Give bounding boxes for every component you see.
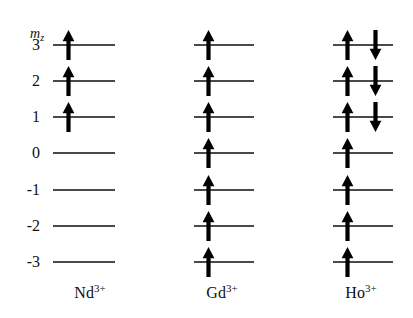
spin-up-arrow-icon	[341, 30, 354, 60]
spin-up-arrow-icon	[202, 175, 215, 205]
level-line-nd-mzneg1	[53, 189, 115, 191]
mz-tick-1: 1	[6, 109, 40, 125]
mz-tick-2: 2	[6, 73, 40, 89]
spin-up-arrow-icon	[341, 66, 354, 96]
level-line-nd-mzneg3	[53, 261, 115, 263]
axis-label-subscript: z	[40, 32, 44, 43]
spin-up-arrow-icon	[341, 138, 354, 168]
ion-symbol: Ho	[345, 284, 365, 301]
spin-up-arrow-icon	[62, 66, 75, 96]
spin-up-arrow-icon	[341, 247, 354, 277]
spin-down-arrow-icon	[369, 30, 382, 60]
mz-tick-neg1: -1	[6, 182, 40, 198]
ion-symbol: Nd	[74, 284, 94, 301]
spin-up-arrow-icon	[341, 102, 354, 132]
mz-tick-0: 0	[6, 145, 40, 161]
spin-up-arrow-icon	[202, 66, 215, 96]
ion-caption-ho: Ho3+	[321, 283, 401, 301]
mz-tick-neg3: -3	[6, 254, 40, 270]
spin-up-arrow-icon	[62, 30, 75, 60]
energy-level-diagram: mz 3210-1-2-3 Nd3+Gd3+Ho3+	[0, 0, 413, 318]
spin-up-arrow-icon	[202, 138, 215, 168]
ion-charge: 3+	[365, 282, 377, 294]
spin-up-arrow-icon	[202, 211, 215, 241]
ion-charge: 3+	[226, 282, 238, 294]
spin-up-arrow-icon	[202, 247, 215, 277]
ion-caption-nd: Nd3+	[50, 283, 130, 301]
mz-tick-neg2: -2	[6, 218, 40, 234]
spin-up-arrow-icon	[341, 211, 354, 241]
ion-caption-gd: Gd3+	[182, 283, 262, 301]
spin-up-arrow-icon	[202, 102, 215, 132]
spin-down-arrow-icon	[369, 66, 382, 96]
spin-up-arrow-icon	[62, 102, 75, 132]
ion-charge: 3+	[94, 282, 106, 294]
spin-up-arrow-icon	[202, 30, 215, 60]
ion-symbol: Gd	[206, 284, 226, 301]
spin-up-arrow-icon	[341, 175, 354, 205]
level-line-nd-mz0	[53, 152, 115, 154]
spin-down-arrow-icon	[369, 102, 382, 132]
level-line-nd-mzneg2	[53, 225, 115, 227]
mz-tick-3: 3	[6, 37, 40, 53]
